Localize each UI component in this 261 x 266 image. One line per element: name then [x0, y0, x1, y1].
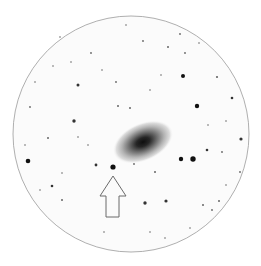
star [133, 163, 135, 165]
star [198, 42, 200, 44]
star [61, 199, 63, 201]
star [90, 52, 92, 54]
star [179, 33, 181, 35]
star [149, 89, 151, 91]
star [51, 185, 54, 188]
star [103, 231, 105, 233]
target-star [110, 164, 115, 169]
star [72, 119, 75, 122]
star [149, 231, 151, 233]
star [218, 200, 220, 202]
star [142, 40, 144, 42]
star [160, 74, 162, 76]
star [26, 159, 31, 164]
star [87, 144, 89, 146]
star [211, 209, 213, 211]
star [164, 199, 167, 202]
star [39, 189, 41, 191]
star [129, 107, 131, 109]
star [117, 105, 119, 107]
star [47, 137, 49, 139]
star [77, 84, 80, 87]
star [101, 69, 103, 71]
star [184, 52, 186, 54]
star [34, 81, 36, 83]
star [52, 65, 54, 67]
finder-chart [0, 0, 261, 266]
star [59, 36, 61, 38]
star [221, 151, 223, 153]
star [202, 204, 204, 206]
star [95, 164, 98, 167]
star [239, 171, 241, 173]
star [167, 46, 169, 48]
star [61, 172, 63, 174]
star [206, 149, 209, 152]
star [239, 137, 242, 140]
star [154, 171, 156, 173]
star [225, 184, 227, 186]
star [77, 136, 79, 138]
star [231, 97, 234, 100]
star [164, 237, 166, 239]
star [189, 227, 191, 229]
star [195, 104, 199, 108]
star [143, 201, 146, 204]
star [216, 76, 218, 78]
star [29, 106, 31, 108]
star [125, 24, 127, 26]
star [190, 156, 195, 161]
star [181, 74, 185, 78]
star [225, 120, 227, 122]
star [24, 144, 26, 146]
star [115, 81, 117, 83]
star [207, 124, 209, 126]
star [70, 61, 72, 63]
star [179, 157, 183, 161]
